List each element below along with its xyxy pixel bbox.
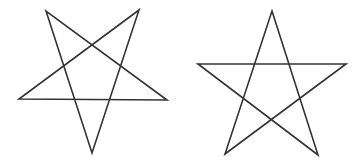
stars-figure <box>0 0 359 166</box>
upright-pentagram-star <box>198 11 346 155</box>
diagram-canvas <box>0 0 359 166</box>
inverted-pentagram-star <box>19 10 167 153</box>
